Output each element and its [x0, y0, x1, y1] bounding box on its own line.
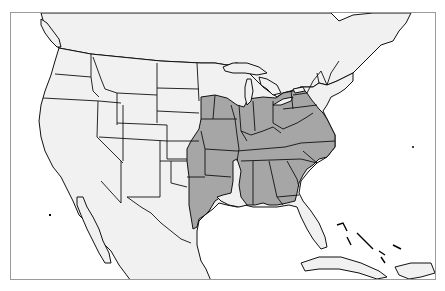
bahamas — [337, 223, 401, 263]
bermuda-dot — [412, 146, 414, 148]
us-map — [11, 13, 436, 280]
guadalupe-island — [49, 214, 51, 216]
hispaniola — [395, 263, 435, 279]
map-frame: United States — shaded region Shaded reg… — [10, 12, 436, 280]
highlighted-region — [187, 87, 335, 229]
cuba — [301, 257, 387, 279]
